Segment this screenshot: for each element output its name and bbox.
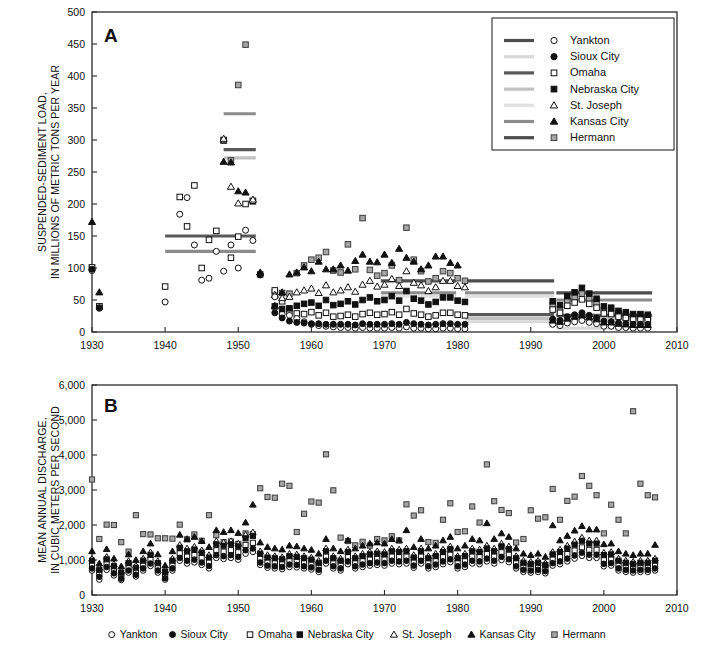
legend-marker	[550, 118, 557, 124]
data-point	[550, 307, 556, 313]
data-point	[96, 289, 103, 295]
data-point	[258, 486, 263, 491]
legend-marker	[468, 631, 475, 637]
y-tick-label: 150	[67, 230, 85, 242]
data-point	[623, 531, 628, 536]
data-point	[243, 42, 249, 48]
y-tick-label: 200	[67, 198, 85, 210]
data-point	[309, 309, 315, 315]
data-point	[448, 270, 454, 276]
data-point	[565, 556, 571, 562]
data-point	[272, 556, 277, 561]
data-point	[294, 554, 299, 559]
data-point	[549, 522, 556, 528]
data-point	[557, 317, 563, 323]
data-point	[404, 306, 410, 312]
data-point	[630, 321, 636, 327]
data-point	[344, 267, 351, 273]
data-point	[265, 555, 270, 560]
data-point	[616, 308, 622, 314]
data-point	[345, 321, 351, 327]
y-tick-label: 5,000	[59, 414, 85, 426]
data-point	[111, 564, 116, 569]
data-point	[447, 321, 453, 327]
data-point	[418, 321, 424, 327]
data-point	[279, 564, 285, 570]
data-point	[425, 322, 431, 328]
data-point	[89, 477, 94, 482]
data-point	[469, 536, 476, 542]
data-point	[250, 540, 255, 545]
data-point	[638, 311, 644, 317]
data-point	[236, 544, 241, 549]
x-tick-label: 1950	[227, 339, 251, 351]
data-point	[170, 566, 176, 572]
data-point	[462, 321, 468, 327]
data-point	[96, 560, 103, 566]
data-point	[89, 566, 95, 572]
legend-bottom: YanktonSioux CityOmahaNebraska CitySt. J…	[109, 628, 606, 640]
data-point	[228, 255, 234, 261]
data-point	[389, 558, 395, 564]
y-tick-label: 1,000	[59, 554, 85, 566]
data-point	[594, 305, 600, 311]
x-tick-label: 1970	[373, 602, 397, 614]
data-point	[631, 561, 636, 566]
data-point	[484, 556, 490, 562]
data-point	[89, 266, 95, 272]
data-point	[396, 321, 402, 327]
y-tick-label: 50	[73, 294, 85, 306]
data-point	[360, 297, 366, 303]
data-point	[286, 542, 293, 548]
data-point	[352, 564, 358, 570]
data-point	[345, 312, 351, 318]
data-point	[315, 289, 322, 295]
data-point	[250, 533, 255, 538]
data-point	[177, 211, 183, 217]
legend-marker	[550, 102, 557, 108]
data-point	[213, 527, 220, 533]
data-point	[163, 569, 168, 574]
data-point	[243, 536, 248, 541]
data-point	[505, 534, 512, 540]
data-point	[214, 228, 220, 234]
data-point	[111, 555, 118, 561]
data-point	[316, 560, 321, 565]
data-point	[235, 234, 241, 240]
data-point	[572, 494, 577, 499]
data-point	[331, 302, 337, 308]
data-point	[586, 312, 592, 318]
data-point	[97, 536, 102, 541]
data-point	[118, 576, 124, 582]
data-point	[243, 227, 249, 233]
data-point	[550, 552, 555, 557]
data-point	[506, 557, 512, 563]
data-point	[535, 550, 542, 556]
data-point	[155, 568, 161, 574]
x-tick-label: 1970	[373, 339, 397, 351]
legend-marker	[551, 135, 557, 141]
data-point	[455, 275, 461, 281]
data-point	[404, 558, 410, 564]
data-point	[374, 299, 380, 305]
data-point	[630, 552, 637, 558]
data-point	[528, 568, 534, 574]
data-point	[352, 257, 359, 263]
data-point	[594, 315, 600, 321]
data-point	[301, 511, 306, 516]
data-point	[177, 194, 183, 200]
data-point	[330, 289, 337, 295]
data-point	[338, 321, 344, 327]
data-point	[287, 483, 292, 488]
data-point	[323, 321, 329, 327]
data-point	[455, 556, 460, 561]
data-point	[301, 311, 307, 317]
y-tick-label: 6,000	[59, 379, 85, 391]
data-point	[448, 557, 454, 563]
data-point	[447, 259, 454, 265]
data-point	[235, 530, 242, 536]
data-point	[315, 550, 322, 556]
data-point	[454, 282, 461, 288]
data-point	[177, 555, 183, 561]
data-point	[331, 556, 336, 561]
